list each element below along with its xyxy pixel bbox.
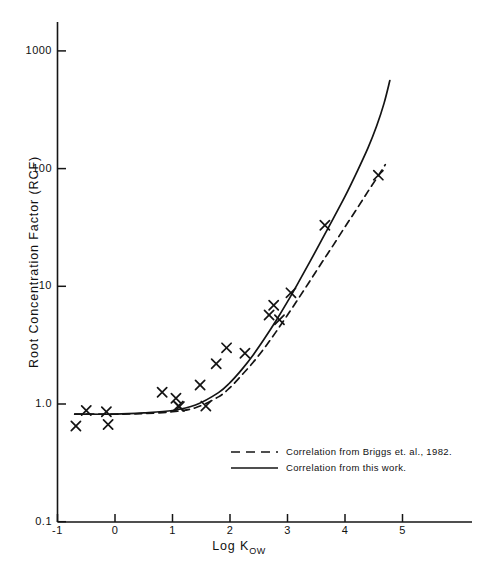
y-tick-label: 1000 xyxy=(10,44,52,56)
x-axis-title-subscript: OW xyxy=(249,546,266,556)
y-tick-label: 1.0 xyxy=(10,397,52,409)
x-tick-label: 4 xyxy=(330,524,360,536)
x-tick-label: 2 xyxy=(215,524,245,536)
x-tick-label: 3 xyxy=(273,524,303,536)
x-tick-label: 1 xyxy=(158,524,188,536)
x-axis-ticks xyxy=(58,514,403,522)
line-this-work xyxy=(75,81,390,415)
figure-root: 0.11.0101001000-1012345 Root Concentrati… xyxy=(0,0,478,566)
x-axis-title: Log KOW xyxy=(169,539,309,556)
x-axis-title-main: Log K xyxy=(212,539,249,553)
legend-label-this-work: Correlation from this work. xyxy=(286,462,406,473)
x-tick-label: 0 xyxy=(100,524,130,536)
legend-swatches xyxy=(231,452,278,468)
x-tick-label: 5 xyxy=(388,524,418,536)
chart-canvas xyxy=(0,0,478,566)
line-briggs xyxy=(75,165,386,415)
scatter-points xyxy=(71,171,383,431)
y-axis-title: Root Concentration Factor (RCF) xyxy=(27,132,41,392)
y-axis-ticks xyxy=(58,51,67,522)
x-tick-label: -1 xyxy=(43,524,73,536)
legend-label-briggs: Correlation from Briggs et. al., 1982. xyxy=(286,446,452,457)
